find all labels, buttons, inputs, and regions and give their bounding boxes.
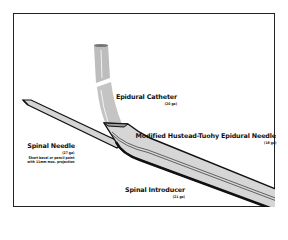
spinal-needle-label: Spinal Needle (27 ga) Short bevel or pen… [19,135,75,165]
epidural-catheter-title: Epidural Catheter [116,93,177,101]
epidural-needle-gauge: (18 ga) [157,142,276,146]
spinal-introducer-label: Spinal Introducer (21 ga) [125,179,185,200]
epidural-catheter-gauge: (20 ga) [125,103,177,107]
epidural-catheter-shape [94,44,122,125]
spinal-introducer-gauge: (21 ga) [134,196,185,200]
spinal-introducer-title: Spinal Introducer [125,186,185,194]
epidural-needle-label: Modified Hustead-Tuohy Epidural Needle (… [136,125,276,146]
epidural-needle-title: Modified Hustead-Tuohy Epidural Needle [136,132,276,140]
spinal-needle-note-2: with 11mm max. projection [28,161,75,165]
epidural-catheter-label: Epidural Catheter (20 ga) [116,86,177,107]
spinal-needle-title: Spinal Needle [27,142,75,150]
